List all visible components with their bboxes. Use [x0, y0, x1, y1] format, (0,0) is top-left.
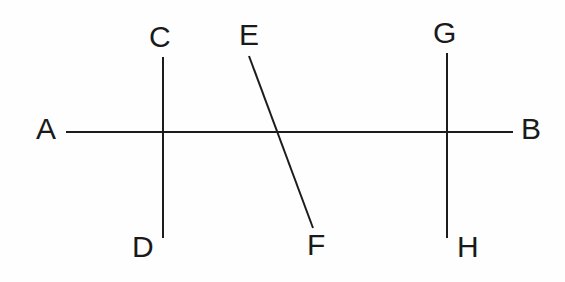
point-label-b: B	[521, 114, 542, 144]
point-label-e: E	[239, 20, 260, 50]
point-label-d: D	[132, 232, 154, 262]
point-label-g: G	[433, 18, 457, 48]
diagram-canvas	[0, 0, 565, 282]
point-label-f: F	[307, 230, 326, 260]
geometry-diagram: A B C D E F G H	[0, 0, 565, 282]
segment-ef	[249, 56, 313, 228]
point-label-a: A	[36, 114, 57, 144]
point-label-h: H	[457, 232, 479, 262]
point-label-c: C	[149, 22, 171, 52]
